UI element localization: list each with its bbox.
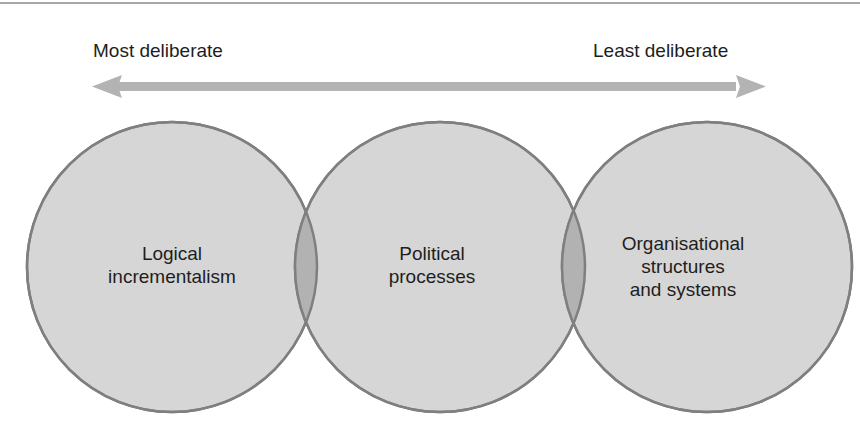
double-headed-arrow-icon [92, 75, 766, 98]
label-line: structures [622, 255, 745, 278]
circle-label-logical-incrementalism: Logical incrementalism [108, 242, 236, 288]
label-line: processes [389, 265, 476, 288]
label-line: Political [389, 242, 476, 265]
venn-diagram [0, 0, 860, 424]
label-line: incrementalism [108, 265, 236, 288]
circle-label-organisational-structures: Organisational structures and systems [622, 232, 745, 301]
label-line: Logical [108, 242, 236, 265]
circle-label-political-processes: Political processes [389, 242, 476, 288]
label-line: and systems [622, 278, 745, 301]
label-line: Organisational [622, 232, 745, 255]
